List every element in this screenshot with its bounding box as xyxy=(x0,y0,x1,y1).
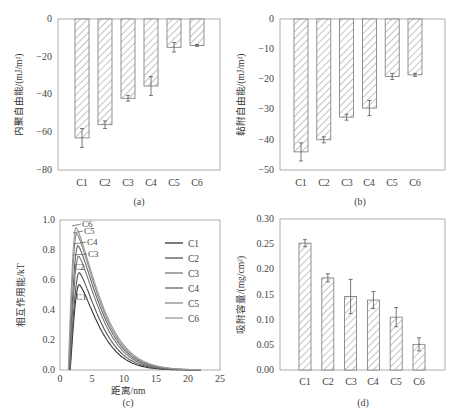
legend-label: C1 xyxy=(188,239,199,249)
annotation-c2: C2 xyxy=(74,262,85,272)
x-category: C1 xyxy=(295,177,307,188)
panel-label: (d) xyxy=(357,397,369,409)
x-category: C2 xyxy=(318,177,330,188)
x-category: C6 xyxy=(413,376,425,387)
y-tick: −40 xyxy=(36,88,52,99)
bar xyxy=(340,19,354,117)
y-axis-label: 黏附自由能/(mJ/m²) xyxy=(235,54,247,137)
x-axis-ticks: 0 5 10 15 20 25 xyxy=(58,373,226,384)
bar xyxy=(121,19,135,98)
panel-label: (b) xyxy=(354,196,366,208)
y-tick: −60 xyxy=(36,126,52,137)
annotation-leader xyxy=(74,242,86,244)
panel-label: (c) xyxy=(122,397,133,409)
x-category: C5 xyxy=(386,177,398,188)
curves: C6C5C4C3C2C1 xyxy=(68,219,201,370)
bar xyxy=(98,19,112,125)
x-category: C2 xyxy=(99,177,111,188)
x-axis-categories: C1 C2 C3 C4 C5 C6 xyxy=(299,376,425,387)
x-category: C3 xyxy=(341,177,353,188)
y-tick: 0.8 xyxy=(43,244,56,255)
x-category: C2 xyxy=(322,376,334,387)
x-tick: 10 xyxy=(119,373,129,384)
y-tick: 0 xyxy=(269,13,274,24)
y-tick: 0.00 xyxy=(257,364,275,375)
x-tick: 20 xyxy=(183,373,193,384)
bar xyxy=(294,19,308,152)
bar xyxy=(367,300,379,370)
y-tick: 0 xyxy=(47,13,52,24)
legend-label: C5 xyxy=(188,299,199,309)
y-tick: 0.25 xyxy=(257,238,275,249)
annotation-leader xyxy=(72,224,81,226)
x-tick: 25 xyxy=(215,373,225,384)
y-axis-ticks: 0 −20 −40 −60 −80 xyxy=(36,13,52,175)
panel-d: 0.30 0.25 0.20 0.15 0.10 0.05 0.00 C1 C2… xyxy=(235,213,445,409)
legend-label: C3 xyxy=(188,269,199,279)
x-category: C1 xyxy=(299,376,311,387)
panel-label: (a) xyxy=(133,196,144,208)
y-axis-ticks: 0 −10 −20 −30 −40 −50 xyxy=(258,13,274,175)
y-tick: 0.4 xyxy=(43,304,56,315)
y-tick: 0.15 xyxy=(257,289,275,300)
y-axis-ticks: 0.30 0.25 0.20 0.15 0.10 0.05 0.00 xyxy=(257,213,275,375)
y-tick: −80 xyxy=(36,164,52,175)
x-category: C4 xyxy=(145,177,157,188)
bar xyxy=(299,243,311,370)
bar xyxy=(322,278,334,370)
x-category: C5 xyxy=(390,376,402,387)
y-axis-label: 吸附容量/(mg/cm²) xyxy=(235,256,247,334)
bars xyxy=(294,19,422,161)
figure: 0 −20 −40 −60 −80 C1 C2 C3 C4 C5 C6 内聚自由… xyxy=(0,0,454,418)
x-tick: 0 xyxy=(58,373,63,384)
bars xyxy=(75,19,204,147)
y-tick: −40 xyxy=(258,134,274,145)
y-tick: 0.0 xyxy=(43,364,56,375)
x-tick: 15 xyxy=(151,373,161,384)
bar xyxy=(385,19,399,76)
y-axis-label: 内聚自由能/(mJ/m²) xyxy=(13,54,25,137)
y-tick: −50 xyxy=(258,164,274,175)
bar xyxy=(408,19,422,75)
x-category: C4 xyxy=(367,376,379,387)
y-tick: 0.10 xyxy=(257,314,275,325)
x-category: C3 xyxy=(122,177,134,188)
y-axis-ticks: 1.0 0.8 0.6 0.4 0.2 0.0 xyxy=(43,214,56,375)
y-tick: 0.6 xyxy=(43,274,56,285)
x-category: C1 xyxy=(76,177,88,188)
x-axis-categories: C1 C2 C3 C4 C5 C6 xyxy=(76,177,203,188)
bars xyxy=(299,240,425,370)
y-tick: −30 xyxy=(258,103,274,114)
legend-label: C6 xyxy=(188,314,199,324)
bar xyxy=(362,19,376,108)
bar xyxy=(144,19,158,86)
y-tick: 1.0 xyxy=(43,214,56,225)
bar xyxy=(75,19,89,138)
x-category: C5 xyxy=(168,177,180,188)
annotation-c1: C1 xyxy=(76,292,87,302)
x-axis-label: 距离/nm xyxy=(111,385,146,396)
x-axis-categories: C1 C2 C3 C4 C5 C6 xyxy=(295,177,421,188)
legend: C1C2C3C4C5C6 xyxy=(165,239,199,324)
y-axis-label: 相互作用能/kT xyxy=(15,263,26,326)
y-tick: 0.2 xyxy=(43,334,56,345)
panel-b: 0 −10 −20 −30 −40 −50 C1 C2 C3 C4 C5 C6 … xyxy=(235,13,445,208)
y-tick: −10 xyxy=(258,43,274,54)
x-tick: 5 xyxy=(90,373,95,384)
panel-a: 0 −20 −40 −60 −80 C1 C2 C3 C4 C5 C6 内聚自由… xyxy=(13,13,220,208)
annotation-c5: C5 xyxy=(84,226,95,236)
y-tick: 0.05 xyxy=(257,339,275,350)
bar xyxy=(190,19,204,45)
y-tick: −20 xyxy=(258,73,274,84)
x-category: C4 xyxy=(363,177,375,188)
annotation-c4: C4 xyxy=(87,237,98,247)
y-tick: 0.20 xyxy=(257,263,275,274)
legend-label: C4 xyxy=(188,284,199,294)
x-category: C6 xyxy=(409,177,421,188)
annotation-c3: C3 xyxy=(88,249,99,259)
panel-c: C6C5C4C3C2C1 1.0 0.8 0.6 0.4 0.2 0.0 0 5… xyxy=(15,214,225,409)
x-category: C3 xyxy=(345,376,357,387)
y-tick: 0.30 xyxy=(257,213,275,224)
bar xyxy=(317,19,331,140)
legend-label: C2 xyxy=(188,254,199,264)
